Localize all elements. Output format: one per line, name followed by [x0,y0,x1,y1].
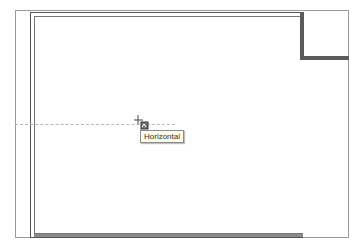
crosshair-snap-cursor-icon [134,115,150,131]
drawing-canvas[interactable]: Horizontal [0,0,361,250]
wall-top-outer-line[interactable] [30,12,301,13]
snap-tooltip: Horizontal [140,130,184,143]
wall-bottom-outer-line[interactable] [30,237,303,238]
wall-top-inner-line[interactable] [34,16,300,17]
wall-bottom-inner-line[interactable] [34,233,303,234]
horizontal-alignment-guide [15,124,175,125]
wall-left-outer-line[interactable] [30,12,31,238]
wall-left-inner-line[interactable] [34,16,35,234]
corner-wall-vertical[interactable] [300,12,304,59]
corner-wall-horizontal[interactable] [300,56,349,60]
